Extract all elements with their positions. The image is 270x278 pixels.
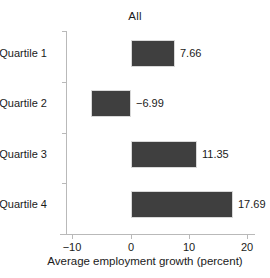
value-label-quartile-1: 7.66 [180, 47, 201, 59]
bar-quartile-3 [131, 141, 197, 168]
value-label-quartile-2: −6.99 [136, 97, 164, 109]
y-axis-tick [62, 133, 66, 134]
x-axis-tick [131, 235, 132, 239]
bar-quartile-2 [91, 90, 132, 117]
value-label-quartile-4: 17.69 [238, 198, 266, 210]
x-axis-tick [72, 235, 73, 239]
x-tick-label-20: 20 [227, 241, 267, 253]
category-label-quartile-3: Quartile 3 [0, 148, 47, 160]
y-axis-tick [62, 82, 66, 83]
y-axis-tick [62, 234, 66, 235]
bar-quartile-1 [131, 40, 175, 67]
x-axis-tick [189, 235, 190, 239]
y-axis-tick [62, 183, 66, 184]
category-label-quartile-4: Quartile 4 [0, 198, 47, 210]
x-tick-label-0: 0 [111, 241, 151, 253]
y-axis-tick [62, 31, 66, 32]
value-label-quartile-3: 11.35 [202, 148, 229, 160]
x-axis-line [60, 234, 255, 235]
x-axis-title: Average employment growth (percent) [10, 255, 270, 267]
bar-chart: All Quartile 1 Quartile 2 Quartile 3 Qua… [0, 0, 270, 278]
plot-area: Quartile 1 Quartile 2 Quartile 3 Quartil… [66, 31, 255, 234]
y-axis-line [66, 31, 67, 234]
bar-quartile-4 [131, 191, 233, 218]
category-label-quartile-2: Quartile 2 [0, 97, 47, 109]
chart-title: All [38, 10, 232, 22]
category-label-quartile-1: Quartile 1 [0, 47, 47, 59]
x-tick-label-10: 10 [169, 241, 209, 253]
x-tick-label--10: −10 [52, 241, 92, 253]
x-axis-tick [247, 235, 248, 239]
